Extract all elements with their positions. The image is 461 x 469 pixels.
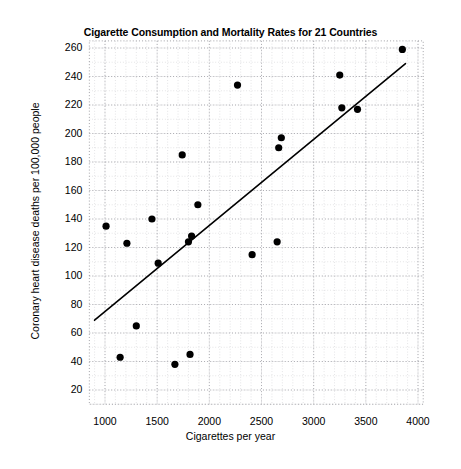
x-tick-label-1000: 1000: [75, 415, 135, 427]
plot-background: [89, 41, 423, 404]
data-point-14: [274, 238, 281, 245]
y-tick-label-60: 60: [42, 326, 82, 338]
y-tick-label-40: 40: [42, 355, 82, 367]
data-point-4: [148, 215, 155, 222]
data-point-18: [338, 104, 345, 111]
data-point-20: [399, 46, 406, 53]
y-tick-label-140: 140: [42, 212, 82, 224]
y-tick-label-260: 260: [42, 41, 82, 53]
data-point-13: [249, 251, 256, 258]
x-tick-label-3500: 3500: [336, 415, 396, 427]
y-tick-label-100: 100: [42, 269, 82, 281]
data-point-3: [133, 322, 140, 329]
data-point-5: [155, 260, 162, 267]
y-tick-label-180: 180: [42, 155, 82, 167]
data-point-0: [102, 223, 109, 230]
y-tick-label-160: 160: [42, 184, 82, 196]
data-point-7: [179, 151, 186, 158]
data-point-12: [234, 81, 241, 88]
data-point-2: [123, 240, 130, 247]
data-point-17: [336, 71, 343, 78]
x-tick-label-4000: 4000: [388, 415, 448, 427]
data-point-1: [117, 354, 124, 361]
chart-figure: Cigarette Consumption and Mortality Rate…: [0, 0, 461, 469]
y-tick-label-200: 200: [42, 127, 82, 139]
data-point-9: [186, 351, 193, 358]
x-tick-label-2500: 2500: [232, 415, 292, 427]
data-point-19: [354, 106, 361, 113]
data-point-11: [194, 201, 201, 208]
data-point-16: [278, 134, 285, 141]
x-tick-label-3000: 3000: [284, 415, 344, 427]
x-tick-label-1500: 1500: [127, 415, 187, 427]
data-point-10: [188, 233, 195, 240]
y-tick-label-240: 240: [42, 70, 82, 82]
y-tick-label-20: 20: [42, 383, 82, 395]
data-point-6: [171, 361, 178, 368]
data-point-15: [275, 144, 282, 151]
y-tick-label-120: 120: [42, 241, 82, 253]
y-tick-label-220: 220: [42, 98, 82, 110]
y-tick-label-80: 80: [42, 298, 82, 310]
x-tick-label-2000: 2000: [179, 415, 239, 427]
